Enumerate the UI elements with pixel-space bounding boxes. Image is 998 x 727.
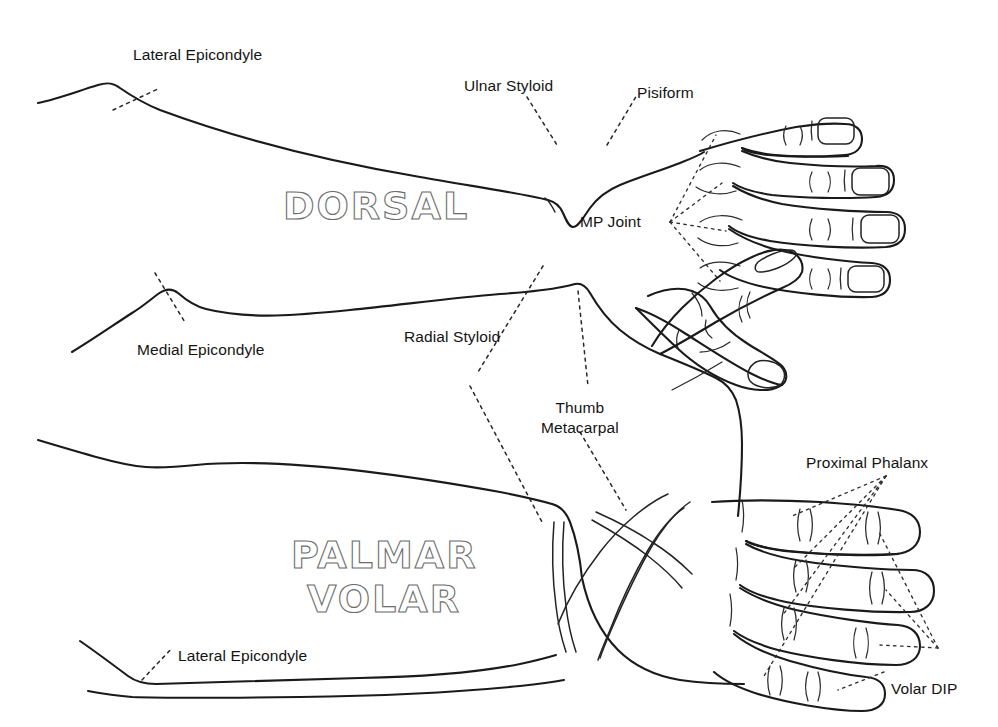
leader-proximal-phalanx-4: [764, 476, 886, 676]
anatomy-illustration: DORSAL PALMAR VOLAR: [0, 0, 998, 727]
dorsal-finger-2-outline: [733, 151, 894, 198]
leader-mp-joint-4: [670, 222, 720, 281]
palmar-lower-forearm-outline: [38, 440, 552, 504]
dorsal-finger-4-dip-crease-left: [810, 269, 812, 289]
palmar-finger-2-dip-crease-a: [870, 572, 872, 604]
dorsal-finger-2-dip-crease-left: [810, 172, 812, 192]
palmar-bottom-arm-upper-border: [80, 641, 556, 684]
heading-dorsal: DORSAL: [283, 184, 469, 228]
dorsal-finger-2-pip-crease: [844, 170, 845, 191]
palmar-finger-4-dip-crease-a: [768, 666, 770, 695]
dorsal-finger-3-dip-crease-left: [810, 219, 812, 240]
dorsal-mp-knuckle-arc-1: [702, 131, 740, 140]
dorsal-finger-3-nail: [861, 215, 899, 243]
palmar-finger-1-dip-crease-a: [866, 512, 868, 544]
palmar-thumb-outline: [652, 250, 803, 354]
palmar-finger-3-pip-crease-b: [794, 608, 796, 640]
dorsal-hand-upper-border: [700, 124, 845, 151]
label-lateral-epicondyle-dorsal: Lateral Epicondyle: [133, 45, 262, 65]
label-thumb-metacarpal: Thumb Metacarpal: [541, 398, 619, 438]
palmar-mp-web-2: [736, 548, 738, 580]
palmar-finger-2-pip-crease-a: [794, 560, 796, 592]
palmar-wrist-crease-2: [563, 522, 576, 652]
dorsal-finger-2-dip-crease-right: [828, 172, 830, 192]
palmar-mp-web-1: [742, 500, 744, 532]
label-radial-styloid: Radial Styloid: [404, 327, 500, 347]
dorsal-mp-knuckle-arc-2: [700, 163, 740, 170]
palmar-finger-4-outline: [714, 634, 885, 711]
dorsal-finger-4-nail: [848, 266, 884, 292]
heading-volar: VOLAR: [307, 577, 461, 621]
leader-mp-joint-1: [670, 135, 716, 222]
dorsal-finger-4-dip-crease-right: [828, 269, 830, 289]
palmar-ulnar-wrist-into-hand: [552, 504, 582, 578]
palmar-finger-2-dip-crease-b: [882, 572, 884, 604]
leader-thumb-metacarpal: [578, 291, 588, 386]
palmar-view-group: [38, 250, 938, 711]
dorsal-finger-1-pip-crease: [811, 121, 812, 140]
leader-medial-epicondyle: [155, 273, 186, 324]
leader-volar-dip-1: [878, 530, 938, 648]
dorsal-mp-knuckle-arc-3: [700, 216, 742, 222]
dorsal-finger-1-dip-crease-right: [800, 126, 802, 145]
palmar-finger-4-dip-crease-b: [780, 666, 782, 695]
label-mp-joint: MP Joint: [580, 212, 641, 232]
label-medial-epicondyle: Medial Epicondyle: [137, 340, 265, 360]
leader-proximal-phalanx-1: [790, 476, 886, 517]
leader-volar-dip-2: [886, 590, 938, 648]
palmar-finger-1-dip-crease-b: [878, 512, 880, 544]
palmar-distal-transverse-crease: [596, 512, 692, 574]
palmar-finger-3-dip-crease-a: [854, 628, 856, 658]
palmar-finger-3-outline: [734, 588, 920, 665]
heading-palmar: PALMAR: [291, 533, 477, 577]
dorsal-finger-3-pip-crease: [852, 218, 853, 240]
palmar-mp-web-3: [730, 594, 732, 626]
dorsal-finger-1-nail: [818, 118, 854, 144]
leader-thumb-metacarpal-lower: [580, 432, 626, 510]
leader-lateral-epicondyle-palmar: [142, 648, 172, 680]
dorsal-finger-4-pip-crease: [840, 268, 841, 289]
dorsal-mp-knuckle-arc-3b: [698, 238, 738, 246]
leader-radial-styloid: [478, 266, 543, 372]
palmar-finger-1-pip-crease-b: [810, 509, 812, 541]
leader-radial-styloid-lower: [470, 386, 542, 522]
palmar-finger-4-pip-crease-a: [806, 672, 808, 701]
leader-mp-joint-3: [670, 222, 726, 231]
palmar-thenar-crease: [600, 502, 690, 658]
dorsal-finger-2-nail: [852, 168, 889, 195]
palmar-hypothenar-border: [582, 578, 744, 684]
palmar-palm-outline: [660, 354, 742, 516]
anatomy-diagram: DORSAL PALMAR VOLAR Lateral Epicondyle U…: [0, 0, 998, 727]
label-proximal-phalanx: Proximal Phalanx: [806, 453, 928, 473]
label-volar-dip: Volar DIP: [891, 679, 957, 699]
label-ulnar-styloid: Ulnar Styloid: [464, 76, 553, 96]
palmar-bottom-arm-lower-border: [88, 680, 564, 698]
label-pisiform: Pisiform: [637, 83, 694, 103]
leader-volar-dip-3: [880, 645, 938, 648]
dorsal-finger-4-outline: [720, 229, 890, 297]
leader-ulnar-styloid: [527, 97, 557, 145]
dorsal-finger-3-dip-crease-right: [828, 219, 830, 240]
palmar-finger-4-pip-crease-b: [818, 672, 820, 701]
dorsal-thumb-lower-edge: [636, 308, 782, 385]
palmar-finger-3-dip-crease-b: [866, 628, 868, 658]
palmar-finger-1-pip-crease-a: [798, 509, 800, 541]
label-lateral-epicondyle-palmar: Lateral Epicondyle: [178, 646, 307, 666]
leader-pisiform: [607, 95, 637, 145]
palmar-finger-2-pip-crease-b: [806, 560, 808, 592]
